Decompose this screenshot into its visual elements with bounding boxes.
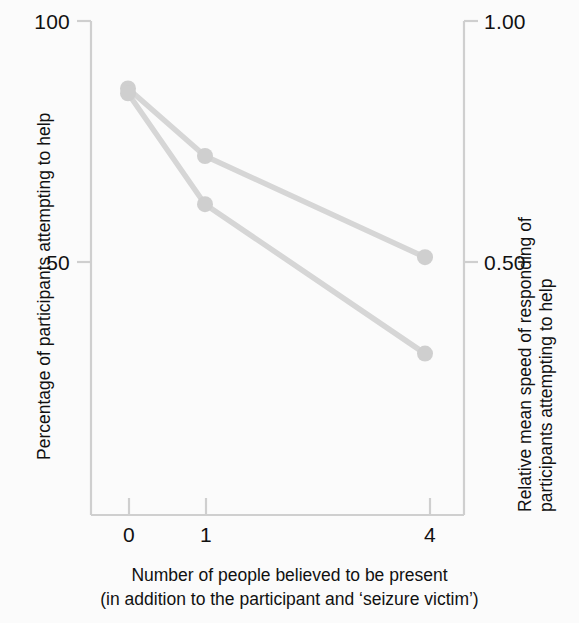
data-point-marker [197, 148, 213, 164]
y-axis-right-title-line-1: Relative mean speed of responding of [515, 92, 536, 512]
right-axis-ticks [464, 21, 478, 262]
y-right-tick-label-1-00: 1.00 [484, 11, 574, 32]
x-tick-label-0: 0 [99, 524, 159, 545]
series-speed-line [128, 89, 425, 258]
data-point-marker [417, 249, 433, 265]
left-axis-ticks [77, 21, 91, 262]
series-percentage-line [128, 93, 425, 353]
x-axis-caption: Number of people believed to be present … [0, 563, 579, 611]
y-axis-right-title-line-2: participants attempting to help [536, 92, 557, 512]
y-axis-right-title: Relative mean speed of responding of par… [515, 92, 557, 512]
series-percentage-markers [120, 85, 433, 361]
x-axis-caption-line-1: Number of people believed to be present [0, 563, 579, 587]
y-left-tick-label-100: 100 [0, 11, 70, 32]
data-point-marker [120, 85, 136, 101]
x-tick-label-4: 4 [400, 524, 460, 545]
x-axis-caption-line-2: (in addition to the participant and ‘sei… [0, 587, 579, 611]
data-point-marker [197, 196, 213, 212]
chart-figure: 100 50 1.00 0.50 0 1 4 Percentage of par… [0, 0, 579, 623]
x-axis-ticks [129, 498, 430, 515]
data-point-marker [417, 346, 433, 362]
y-axis-left-title: Percentage of participants attempting to… [34, 113, 55, 460]
x-tick-label-1: 1 [176, 524, 236, 545]
line-chart-plot [0, 0, 579, 623]
